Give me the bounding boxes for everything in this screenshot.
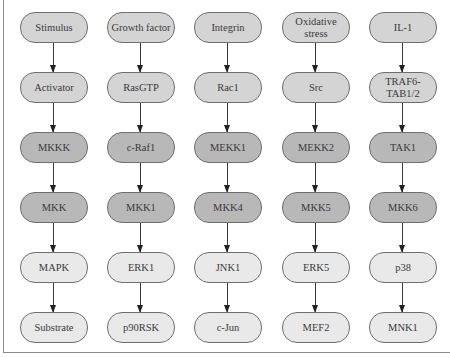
pathway-column-jnk1: Integrin Rac1 MEKK1 MKK4 JNK1 c-Jun [185, 0, 271, 352]
node-label: Substrate [34, 322, 73, 334]
arrow-icon [315, 43, 316, 72]
pathway-column-erk5: Oxidative stress Src MEKK2 MKK5 ERK5 MEF… [273, 0, 359, 352]
node-label: TRAF6-TAB1/2 [370, 76, 436, 100]
node-label: MKK6 [388, 202, 418, 214]
arrow-icon [140, 103, 141, 132]
node-stimulus: Growth factor [107, 12, 175, 43]
node-label: MEF2 [303, 322, 330, 334]
node-activator: Rac1 [194, 72, 262, 103]
node-label: Growth factor [111, 22, 170, 34]
node-mapkkk: MEKK2 [282, 132, 350, 163]
node-label: p90RSK [123, 322, 159, 334]
node-label: JNK1 [216, 262, 241, 274]
arrow-icon [53, 283, 54, 312]
node-activator: Activator [20, 72, 88, 103]
arrow-icon [53, 103, 54, 132]
arrow-icon [227, 43, 228, 72]
node-label: c-Jun [217, 322, 240, 334]
node-mapkk: MKK6 [369, 192, 437, 223]
node-label: MNK1 [388, 322, 418, 334]
node-stimulus: Integrin [194, 12, 262, 43]
node-substrate: MEF2 [282, 312, 350, 343]
node-label: Oxidative stress [283, 16, 349, 40]
node-mapkkk: MKKK [20, 132, 88, 163]
node-stimulus: IL-1 [369, 12, 437, 43]
node-label: MAPK [39, 262, 69, 274]
arrow-icon [53, 43, 54, 72]
arrow-icon [402, 223, 403, 252]
pathway-column-p38: IL-1 TRAF6-TAB1/2 TAK1 MKK6 p38 MNK1 [360, 0, 446, 352]
node-activator: Src [282, 72, 350, 103]
node-stimulus: Oxidative stress [282, 12, 350, 43]
node-label: Integrin [211, 22, 244, 34]
node-label: MKK4 [213, 202, 243, 214]
node-label: p38 [395, 262, 411, 274]
arrow-icon [315, 223, 316, 252]
node-label: ERK1 [128, 262, 154, 274]
node-label: MEKK1 [210, 142, 246, 154]
node-label: IL-1 [394, 22, 413, 34]
arrow-icon [402, 283, 403, 312]
node-mapk: JNK1 [194, 252, 262, 283]
arrow-icon [315, 283, 316, 312]
node-label: MKK1 [126, 202, 156, 214]
node-mapk: ERK1 [107, 252, 175, 283]
arrow-icon [402, 103, 403, 132]
frame-left-border [3, 0, 4, 353]
arrow-icon [140, 223, 141, 252]
node-mapkkk: TAK1 [369, 132, 437, 163]
arrow-icon [227, 283, 228, 312]
node-label: Activator [34, 82, 74, 94]
node-label: MKKK [38, 142, 70, 154]
arrow-icon [227, 163, 228, 192]
node-activator: TRAF6-TAB1/2 [369, 72, 437, 103]
node-substrate: p90RSK [107, 312, 175, 343]
arrow-icon [53, 163, 54, 192]
node-mapkkk: c-Raf1 [107, 132, 175, 163]
arrow-icon [140, 43, 141, 72]
node-label: MKK5 [301, 202, 331, 214]
node-mapk: p38 [369, 252, 437, 283]
node-mapk: MAPK [20, 252, 88, 283]
node-label: Rac1 [217, 82, 239, 94]
node-mapkk: MKK1 [107, 192, 175, 223]
node-mapk: ERK5 [282, 252, 350, 283]
node-mapkk: MKK5 [282, 192, 350, 223]
arrow-icon [53, 223, 54, 252]
pathway-column-erk1: Growth factor RasGTP c-Raf1 MKK1 ERK1 p9… [98, 0, 184, 352]
node-mapkkk: MEKK1 [194, 132, 262, 163]
node-mapkk: MKK [20, 192, 88, 223]
arrow-icon [227, 103, 228, 132]
arrow-icon [227, 223, 228, 252]
node-stimulus: Stimulus [20, 12, 88, 43]
node-substrate: c-Jun [194, 312, 262, 343]
frame-bottom-border [3, 352, 450, 353]
pathway-column-generic: Stimulus Activator MKKK MKK MAPK Substra… [11, 0, 97, 352]
node-label: c-Raf1 [127, 142, 156, 154]
node-activator: RasGTP [107, 72, 175, 103]
arrow-icon [140, 163, 141, 192]
node-mapkk: MKK4 [194, 192, 262, 223]
node-substrate: Substrate [20, 312, 88, 343]
arrow-icon [402, 163, 403, 192]
arrow-icon [402, 43, 403, 72]
node-substrate: MNK1 [369, 312, 437, 343]
node-label: Src [309, 82, 323, 94]
node-label: MKK [42, 202, 67, 214]
arrow-icon [315, 103, 316, 132]
node-label: Stimulus [35, 22, 72, 34]
arrow-icon [140, 283, 141, 312]
arrow-icon [315, 163, 316, 192]
node-label: RasGTP [123, 82, 159, 94]
node-label: ERK5 [303, 262, 329, 274]
node-label: MEKK2 [298, 142, 334, 154]
node-label: TAK1 [390, 142, 416, 154]
